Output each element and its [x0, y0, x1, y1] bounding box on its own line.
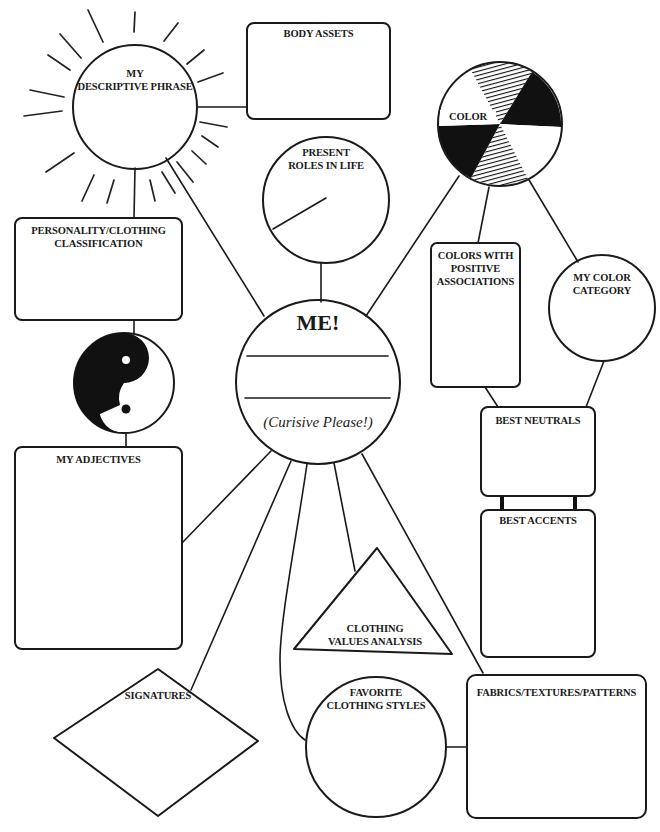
adjectives-box[interactable] — [15, 447, 182, 649]
label-line: CLASSIFICATION — [15, 237, 182, 250]
label-line: PERSONALITY/CLOTHING — [15, 224, 182, 237]
label-line: PRESENT — [266, 146, 386, 159]
label-line: POSITIVE — [431, 262, 520, 275]
label-line: MY — [75, 67, 195, 80]
descriptive-phrase-label: MY DESCRIPTIVE PHRASE — [75, 67, 195, 93]
label-line: MY COLOR — [550, 271, 654, 284]
roles-divider-line — [273, 198, 326, 229]
label-line: DESCRIPTIVE PHRASE — [75, 80, 195, 93]
label-line: CATEGORY — [550, 284, 654, 297]
color-category-label: MY COLOR CATEGORY — [550, 271, 654, 297]
color-wheel-icon — [438, 62, 562, 186]
best-neutrals-label: BEST NEUTRALS — [481, 414, 595, 427]
best-accents-box[interactable] — [481, 510, 595, 657]
present-roles-label: PRESENT ROLES IN LIFE — [266, 146, 386, 172]
label-line: FAVORITE — [316, 686, 436, 699]
favorite-styles-label: FAVORITE CLOTHING STYLES — [316, 686, 436, 712]
best-accents-label: BEST ACCENTS — [481, 514, 595, 527]
label-line: VALUES ANALYSIS — [320, 635, 430, 648]
label-line: ASSOCIATIONS — [431, 275, 520, 288]
label-line: ROLES IN LIFE — [266, 159, 386, 172]
me-title: ME! — [278, 310, 358, 336]
adjectives-label: MY ADJECTIVES — [15, 453, 182, 466]
signatures-label: SIGNATURES — [118, 689, 198, 702]
self-image-mind-map: MY DESCRIPTIVE PHRASE BODY ASSETS PRESEN… — [0, 0, 660, 832]
clothing-values-label: CLOTHING VALUES ANALYSIS — [320, 622, 430, 648]
fabrics-label: FABRICS/TEXTURES/PATTERNS — [467, 686, 646, 699]
color-wheel-label: COLOR — [440, 110, 496, 123]
label-line: CLOTHING — [320, 622, 430, 635]
colors-positive-label: COLORS WITH POSITIVE ASSOCIATIONS — [431, 249, 520, 288]
yin-yang-icon — [74, 333, 174, 433]
descriptive-phrase-circle[interactable] — [73, 45, 197, 169]
label-line: CLOTHING STYLES — [316, 699, 436, 712]
personality-classification-label: PERSONALITY/CLOTHING CLASSIFICATION — [15, 224, 182, 250]
body-assets-label: BODY ASSETS — [247, 27, 390, 40]
cursive-instruction: (Curisive Please!) — [248, 414, 388, 431]
label-line: COLORS WITH — [431, 249, 520, 262]
